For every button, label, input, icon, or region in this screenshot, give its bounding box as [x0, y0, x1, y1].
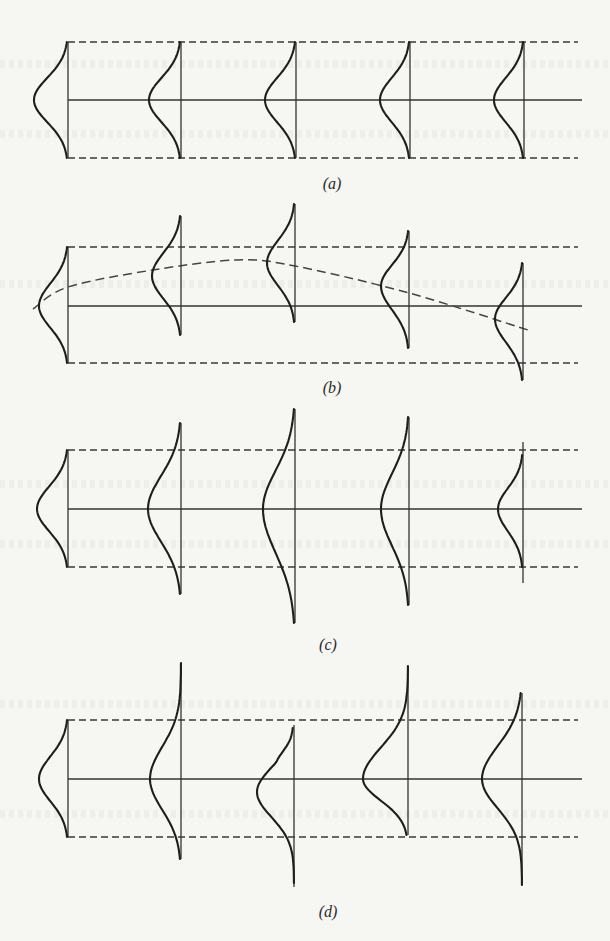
panel-label-a: (a)	[323, 175, 342, 193]
distribution-curve-c-1	[37, 450, 67, 567]
distribution-curve-d-5	[482, 693, 522, 885]
distribution-curve-d-3	[257, 728, 294, 883]
distribution-curve-c-3	[263, 409, 294, 623]
distribution-curve-b-4	[381, 231, 408, 348]
panel-label-c: (c)	[319, 636, 337, 654]
distribution-curve-b-1	[39, 247, 67, 363]
distribution-curve-c-4	[381, 417, 408, 605]
distribution-curve-d-4	[363, 666, 408, 835]
figure: (a) (b) (c) (d)	[0, 0, 610, 941]
trend-curve-b	[33, 260, 528, 330]
distribution-curve-d-2	[150, 663, 181, 859]
panel-label-d: (d)	[319, 903, 338, 921]
distribution-curve-d-1	[39, 720, 67, 837]
distribution-curve-b-2	[152, 216, 180, 335]
panel-label-b: (b)	[323, 379, 342, 397]
distribution-curve-a-1	[34, 42, 67, 158]
distribution-diagram	[0, 0, 610, 941]
distribution-curve-c-5	[498, 455, 522, 567]
